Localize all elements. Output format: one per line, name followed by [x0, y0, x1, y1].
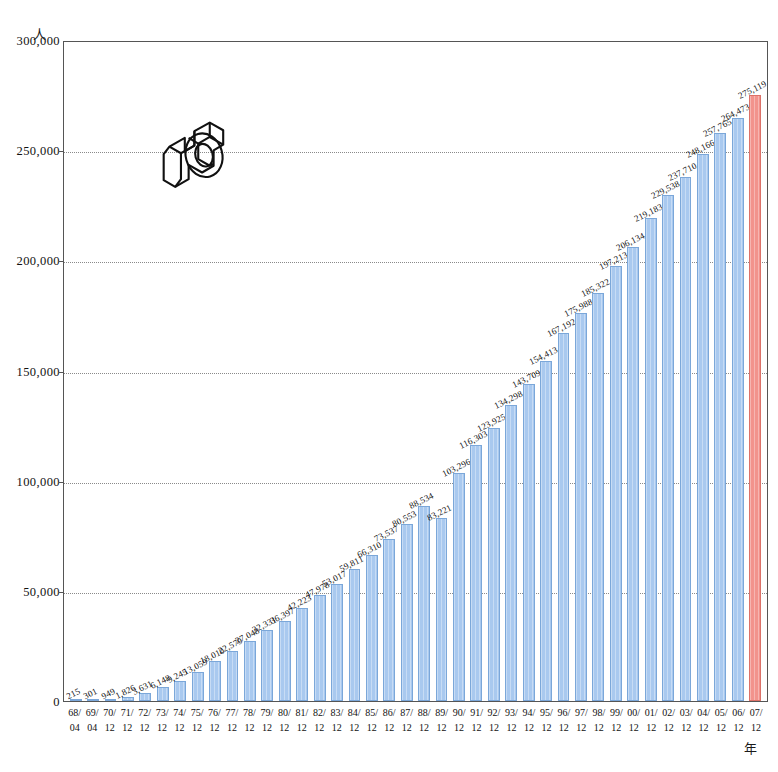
- x-axis-month: 12: [258, 721, 275, 736]
- bar[interactable]: 9,245: [174, 681, 186, 701]
- x-axis-year: 71/: [118, 706, 135, 721]
- x-axis-month: 12: [276, 721, 293, 736]
- bar-cell: 264,473: [729, 42, 746, 701]
- bar-cell: 229,538: [659, 42, 676, 701]
- bar[interactable]: 18,010: [209, 661, 221, 701]
- bar[interactable]: 103,296: [453, 473, 465, 701]
- x-axis-tick-label: 78/12: [241, 706, 258, 754]
- bar[interactable]: 167,192: [558, 333, 570, 701]
- bar[interactable]: 3,631: [139, 693, 151, 701]
- x-axis-month: 12: [206, 721, 223, 736]
- bar[interactable]: 13,059: [192, 672, 204, 701]
- x-axis-year: 96/: [555, 706, 572, 721]
- x-axis-tick-label: 94/12: [520, 706, 537, 754]
- bar-cell: 83,221: [433, 42, 450, 701]
- bar[interactable]: 206,134: [627, 247, 639, 701]
- bar[interactable]: 301: [87, 699, 99, 701]
- bar-cell: 175,988: [572, 42, 589, 701]
- bar-cell: 248,166: [694, 42, 711, 701]
- x-axis-month: 12: [747, 721, 764, 736]
- bar-cell: 73,537: [381, 42, 398, 701]
- bar-highlighted[interactable]: 275,119: [749, 95, 761, 701]
- bar-cell: 22,579: [224, 42, 241, 701]
- bar[interactable]: 134,298: [505, 405, 517, 701]
- x-axis-year: 85/: [363, 706, 380, 721]
- bar[interactable]: 80,553: [401, 524, 413, 701]
- x-axis-year: 93/: [503, 706, 520, 721]
- x-axis-year: 83/: [328, 706, 345, 721]
- bar[interactable]: 949: [105, 699, 117, 701]
- x-axis-month: 12: [677, 721, 694, 736]
- x-axis-month: 12: [188, 721, 205, 736]
- x-axis-tick-label: 69/04: [83, 706, 100, 754]
- bar[interactable]: 6,148: [157, 687, 169, 701]
- bar[interactable]: 83,221: [436, 518, 448, 701]
- bar[interactable]: 116,303: [470, 445, 482, 701]
- bar[interactable]: 1,826: [122, 697, 134, 701]
- bar[interactable]: 47,978: [314, 595, 326, 701]
- bar-cell: 949: [102, 42, 119, 701]
- bar-cell: 167,192: [555, 42, 572, 701]
- bar[interactable]: 66,310: [366, 555, 378, 701]
- bar-cell: 13,059: [189, 42, 206, 701]
- bar[interactable]: 88,534: [418, 506, 430, 701]
- bar[interactable]: 237,710: [680, 177, 692, 701]
- x-axis-year: 74/: [171, 706, 188, 721]
- bar[interactable]: 27,048: [244, 641, 256, 701]
- x-axis-tick-label: 95/12: [538, 706, 555, 754]
- x-axis-tick-label: 85/12: [363, 706, 380, 754]
- x-axis-year: 91/: [468, 706, 485, 721]
- bar-value-label: 215: [65, 687, 82, 702]
- bar[interactable]: 185,322: [592, 293, 604, 701]
- x-axis-month: 12: [311, 721, 328, 736]
- x-axis-unit-label: 年: [744, 738, 757, 757]
- x-axis-month: 12: [538, 721, 555, 736]
- bar[interactable]: 264,473: [732, 118, 744, 701]
- bar[interactable]: 123,925: [488, 428, 500, 701]
- x-axis-tick-label: 86/12: [380, 706, 397, 754]
- x-axis-year: 84/: [346, 706, 363, 721]
- bar[interactable]: 42,223: [296, 608, 308, 701]
- bar-cell: 123,925: [485, 42, 502, 701]
- x-axis-month: 12: [101, 721, 118, 736]
- bar-cell: 206,134: [625, 42, 642, 701]
- x-axis-month: 12: [171, 721, 188, 736]
- bar[interactable]: 197,213: [610, 266, 622, 701]
- y-axis-tick-label: 200,000: [17, 254, 60, 269]
- bar[interactable]: 143,709: [523, 384, 535, 701]
- bar[interactable]: 219,183: [645, 218, 657, 701]
- x-axis-month: 12: [573, 721, 590, 736]
- bar-cell: 47,978: [311, 42, 328, 701]
- bar[interactable]: 59,811: [349, 569, 361, 701]
- bar[interactable]: 22,579: [227, 651, 239, 701]
- x-axis-tick-label: 73/12: [153, 706, 170, 754]
- bar[interactable]: 215: [70, 699, 82, 701]
- x-axis-month: 12: [398, 721, 415, 736]
- bar[interactable]: 248,166: [697, 154, 709, 701]
- x-axis-tick-label: 84/12: [346, 706, 363, 754]
- x-axis-year: 73/: [153, 706, 170, 721]
- x-axis-tick-label: 04/12: [695, 706, 712, 754]
- x-axis-tick-label: 93/12: [503, 706, 520, 754]
- bar[interactable]: 32,331: [261, 630, 273, 701]
- x-axis-tick-label: 76/12: [206, 706, 223, 754]
- bar[interactable]: 36,397: [279, 621, 291, 701]
- x-axis-tick-label: 03/12: [677, 706, 694, 754]
- x-axis-year: 89/: [433, 706, 450, 721]
- bar[interactable]: 175,988: [575, 313, 587, 701]
- bar-cell: 134,298: [503, 42, 520, 701]
- bar[interactable]: 257,765: [714, 133, 726, 701]
- x-axis-tick-label: 79/12: [258, 706, 275, 754]
- chart-root: 人 300,000250,000200,000150,000100,00050,…: [0, 0, 778, 772]
- bar[interactable]: 73,537: [383, 539, 395, 701]
- x-axis-year: 95/: [538, 706, 555, 721]
- bar-cell: 154,413: [537, 42, 554, 701]
- bar-cell: 257,765: [712, 42, 729, 701]
- bar-cell: 301: [84, 42, 101, 701]
- bar[interactable]: 53,017: [331, 584, 343, 701]
- bar[interactable]: 154,413: [540, 361, 552, 701]
- x-axis-tick-label: 83/12: [328, 706, 345, 754]
- bar-cell: 53,017: [328, 42, 345, 701]
- bar[interactable]: 229,538: [662, 195, 674, 701]
- x-axis-tick-label: 05/12: [712, 706, 729, 754]
